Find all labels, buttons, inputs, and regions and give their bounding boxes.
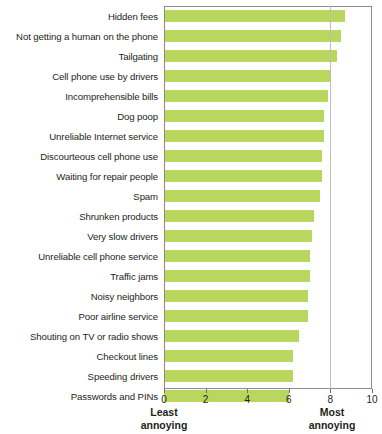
bar xyxy=(164,330,299,342)
annoyances-bar-chart: Hidden feesNot getting a human on the ph… xyxy=(0,0,382,434)
bar-track xyxy=(164,366,374,386)
bar xyxy=(164,250,310,262)
bar xyxy=(164,310,308,322)
bar-track xyxy=(164,66,374,86)
bar xyxy=(164,150,322,162)
bar-track xyxy=(164,286,374,306)
endcap-most-line1: Most xyxy=(292,406,372,419)
x-tick-mark xyxy=(289,389,290,393)
chart-row: Not getting a human on the phone xyxy=(0,26,382,46)
bar xyxy=(164,210,314,222)
bar-label: Checkout lines xyxy=(0,351,164,362)
chart-row: Unreliable cell phone service xyxy=(0,246,382,266)
bar-label: Unreliable Internet service xyxy=(0,131,164,142)
bar-label: Cell phone use by drivers xyxy=(0,71,164,82)
bar xyxy=(164,350,293,362)
chart-row: Tailgating xyxy=(0,46,382,66)
x-tick-label: 10 xyxy=(366,394,377,406)
bar-track xyxy=(164,246,374,266)
chart-row: Cell phone use by drivers xyxy=(0,66,382,86)
x-axis: 0246810 xyxy=(0,389,382,394)
chart-row: Dog poop xyxy=(0,106,382,126)
bar-track xyxy=(164,226,374,246)
chart-row: Shrunken products xyxy=(0,206,382,226)
bar-label: Traffic jams xyxy=(0,271,164,282)
bar-label: Waiting for repair people xyxy=(0,171,164,182)
bar-track xyxy=(164,146,374,166)
bar-label: Poor airline service xyxy=(0,311,164,322)
x-tick-label: 8 xyxy=(328,394,334,406)
chart-row: Traffic jams xyxy=(0,266,382,286)
bar-track xyxy=(164,86,374,106)
bar-label: Dog poop xyxy=(0,111,164,122)
chart-row: Shouting on TV or radio shows xyxy=(0,326,382,346)
chart-row: Hidden fees xyxy=(0,6,382,26)
bar-label: Discourteous cell phone use xyxy=(0,151,164,162)
chart-row: Noisy neighbors xyxy=(0,286,382,306)
bar xyxy=(164,50,337,62)
chart-row: Spam xyxy=(0,186,382,206)
bar-track xyxy=(164,6,374,26)
bar xyxy=(164,130,324,142)
x-tick-mark xyxy=(247,389,248,393)
bar-track xyxy=(164,46,374,66)
bar-track xyxy=(164,166,374,186)
bar xyxy=(164,70,330,82)
chart-row: Discourteous cell phone use xyxy=(0,146,382,166)
chart-rows: Hidden feesNot getting a human on the ph… xyxy=(0,6,382,406)
bar xyxy=(164,230,312,242)
bar-track xyxy=(164,306,374,326)
bar-track xyxy=(164,126,374,146)
bar-label: Shrunken products xyxy=(0,211,164,222)
bar xyxy=(164,90,328,102)
bar xyxy=(164,30,341,42)
x-tick-mark xyxy=(206,389,207,393)
chart-row: Speeding drivers xyxy=(0,366,382,386)
x-tick-mark xyxy=(164,389,165,393)
chart-row: Waiting for repair people xyxy=(0,166,382,186)
bar xyxy=(164,270,310,282)
bar-track xyxy=(164,206,374,226)
bar-track xyxy=(164,326,374,346)
bar-track xyxy=(164,26,374,46)
bar xyxy=(164,110,324,122)
chart-row: Incomprehensible bills xyxy=(0,86,382,106)
bar-label: Tailgating xyxy=(0,51,164,62)
chart-row: Checkout lines xyxy=(0,346,382,366)
bar xyxy=(164,10,345,22)
endcap-most-line2: annoying xyxy=(292,419,372,432)
bar-track xyxy=(164,106,374,126)
x-tick-label: 6 xyxy=(286,394,292,406)
bar xyxy=(164,190,320,202)
bar-track xyxy=(164,266,374,286)
endcap-least-line2: annoying xyxy=(124,419,204,432)
x-tick-label: 2 xyxy=(203,394,209,406)
chart-row: Very slow drivers xyxy=(0,226,382,246)
axis-endcap-least: Least annoying xyxy=(124,406,204,431)
x-tick-label: 4 xyxy=(244,394,250,406)
chart-row: Unreliable Internet service xyxy=(0,126,382,146)
bar-label: Hidden fees xyxy=(0,11,164,22)
bar-label: Shouting on TV or radio shows xyxy=(0,331,164,342)
bar-label: Speeding drivers xyxy=(0,371,164,382)
bar-track xyxy=(164,346,374,366)
bar xyxy=(164,370,293,382)
bar-label: Noisy neighbors xyxy=(0,291,164,302)
bar-label: Spam xyxy=(0,191,164,202)
chart-row: Poor airline service xyxy=(0,306,382,326)
bar xyxy=(164,170,322,182)
x-tick-label: 0 xyxy=(161,394,167,406)
axis-endcap-most: Most annoying xyxy=(292,406,372,431)
bar-label: Not getting a human on the phone xyxy=(0,31,164,42)
bar xyxy=(164,290,308,302)
bar-label: Very slow drivers xyxy=(0,231,164,242)
bar-track xyxy=(164,186,374,206)
bar-label: Incomprehensible bills xyxy=(0,91,164,102)
x-tick-mark xyxy=(330,389,331,393)
bar-label: Unreliable cell phone service xyxy=(0,251,164,262)
x-tick-mark xyxy=(372,389,373,393)
endcap-least-line1: Least xyxy=(124,406,204,419)
